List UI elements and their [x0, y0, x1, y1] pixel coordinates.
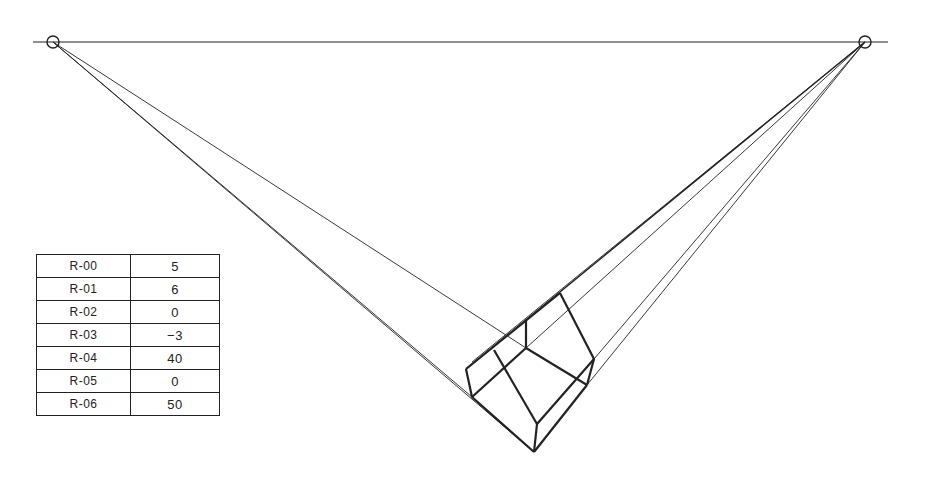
param-value: 0 — [131, 370, 220, 393]
table-row: R-06 50 — [37, 393, 220, 416]
param-key: R-00 — [37, 255, 131, 278]
table-row: R-00 5 — [37, 255, 220, 278]
table-row: R-05 0 — [37, 370, 220, 393]
param-value: 6 — [131, 278, 220, 301]
param-value: 5 — [131, 255, 220, 278]
table-row: R-03 −3 — [37, 324, 220, 347]
table-row: R-02 0 — [37, 301, 220, 324]
param-key: R-03 — [37, 324, 131, 347]
param-value: 40 — [131, 347, 220, 370]
param-value: 0 — [131, 301, 220, 324]
parameter-table: R-00 5 R-01 6 R-02 0 R-03 −3 R-04 40 R-0… — [36, 254, 220, 416]
param-key: R-01 — [37, 278, 131, 301]
param-value: −3 — [131, 324, 220, 347]
param-value: 50 — [131, 393, 220, 416]
param-key: R-06 — [37, 393, 131, 416]
perspective-object — [466, 293, 594, 452]
param-key: R-02 — [37, 301, 131, 324]
param-key: R-05 — [37, 370, 131, 393]
param-key: R-04 — [37, 347, 131, 370]
table-row: R-04 40 — [37, 347, 220, 370]
table-row: R-01 6 — [37, 278, 220, 301]
